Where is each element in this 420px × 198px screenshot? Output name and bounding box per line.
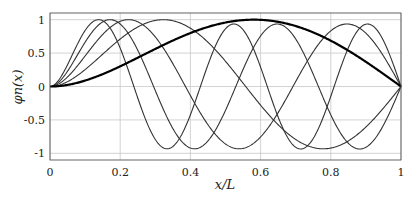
curve-mode-5 — [50, 20, 401, 149]
mode-curves — [50, 20, 401, 149]
x-axis-label: x/L — [215, 177, 235, 192]
y-axis-label: φn(x) — [10, 70, 25, 105]
y-tick-label: 0.5 — [28, 47, 46, 60]
curve-mode-2 — [50, 20, 401, 149]
x-tick-label: 1 — [398, 166, 405, 179]
curve-mode-3 — [50, 20, 401, 149]
y-tick-label: -0.5 — [24, 114, 45, 127]
y-tick-label: 0 — [38, 81, 45, 94]
x-tick-label: 0.8 — [322, 166, 340, 179]
x-tick-label: 0.6 — [252, 166, 270, 179]
y-tick-labels: -1-0.500.51 — [24, 14, 45, 161]
x-tick-label: 0.4 — [182, 166, 200, 179]
y-tick-label: -1 — [34, 147, 45, 160]
x-tick-label: 0 — [47, 166, 54, 179]
curve-mode-4 — [50, 20, 401, 149]
mode-shape-chart: 00.20.40.60.81 -1-0.500.51 x/L φn(x) — [0, 0, 420, 198]
y-tick-label: 1 — [38, 14, 45, 27]
x-tick-label: 0.2 — [111, 166, 129, 179]
